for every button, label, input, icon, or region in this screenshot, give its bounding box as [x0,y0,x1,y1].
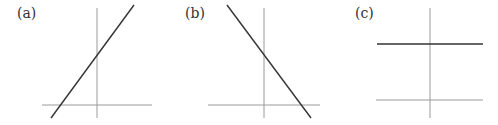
graph-line [51,5,134,118]
panel-b [208,5,320,118]
diagram-canvas [0,0,498,125]
panel-b-label: (b) [185,6,205,20]
panel-a [42,5,152,118]
panel-a-label: (a) [17,6,36,20]
graph-line [227,5,311,118]
panel-c-label: (c) [355,6,374,20]
panel-c [376,8,483,118]
